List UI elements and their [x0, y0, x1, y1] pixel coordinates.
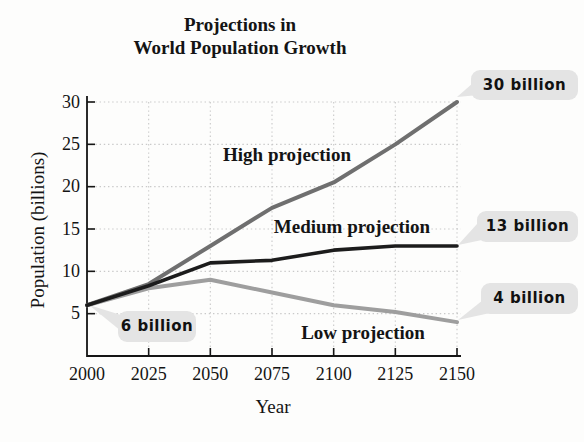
series-label-high: High projection [207, 144, 367, 166]
chart-title-line2: World Population Growth [90, 36, 390, 59]
x-tick-label: 2150 [427, 363, 487, 385]
chart-title: Projections in World Population Growth [90, 13, 390, 59]
callout-13-billion: 13 billion [477, 211, 578, 242]
x-tick-label: 2075 [242, 363, 302, 385]
series-label-low: Low projection [283, 322, 443, 344]
callout-4-billion: 4 billion [481, 283, 578, 314]
x-axis-title: Year [213, 396, 333, 418]
x-tick-label: 2025 [119, 363, 179, 385]
callout-30-billion: 30 billion [471, 70, 578, 100]
callout-6-billion: 6 billion [118, 311, 196, 342]
x-tick-label: 2000 [57, 363, 117, 385]
y-tick-label: 20 [36, 176, 80, 197]
y-tick-label: 15 [36, 219, 80, 240]
callout-tail-6-billion [89, 305, 121, 331]
series-label-medium: Medium projection [262, 216, 442, 238]
x-tick-label: 2050 [180, 363, 240, 385]
y-tick-label: 25 [36, 134, 80, 155]
x-tick-label: 2100 [304, 363, 364, 385]
chart-figure: Projections in World Population Growth P… [0, 0, 584, 442]
y-tick-label: 5 [36, 303, 80, 324]
y-tick-label: 30 [36, 92, 80, 113]
y-tick-label: 10 [36, 261, 80, 282]
chart-title-line1: Projections in [90, 13, 390, 36]
x-tick-label: 2125 [365, 363, 425, 385]
